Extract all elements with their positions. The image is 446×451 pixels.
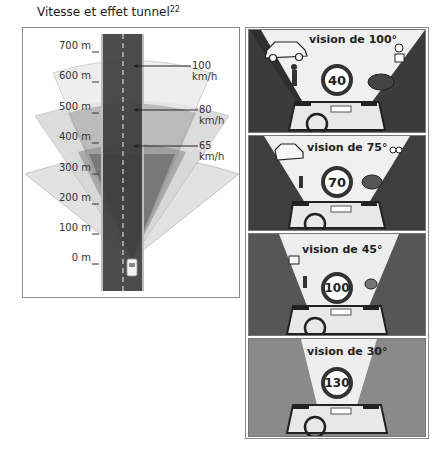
vision-panel-75: vision de 75° 70 <box>248 135 426 231</box>
speed-label-65: 65 km/h <box>199 140 239 162</box>
distance-label-700: 700 m <box>41 40 91 51</box>
speed-sign: 40 <box>321 64 353 96</box>
tunnel-effect-diagram: 700 m 600 m 500 m 400 m 300 m 200 m 100 … <box>22 27 240 298</box>
vision-label: vision de 100° <box>309 33 397 46</box>
distance-label-600: 600 m <box>41 70 91 81</box>
distance-label-0: 0 m <box>41 252 91 263</box>
speed-label-100: 100 km/h <box>192 60 239 82</box>
speed-sign: 130 <box>321 367 353 399</box>
vision-panel-45: vision de 45° 100 <box>248 233 426 336</box>
distance-label-200: 200 m <box>41 192 91 203</box>
distance-label-400: 400 m <box>41 131 91 142</box>
figure-title: Vitesse et effet tunnel22 <box>37 5 180 19</box>
distance-label-300: 300 m <box>41 162 91 173</box>
footnote-ref: 22 <box>170 5 180 14</box>
vision-panel-30: vision de 30° 130 <box>248 338 426 437</box>
vision-label: vision de 75° <box>307 141 387 154</box>
speed-sign: 70 <box>321 166 353 198</box>
distance-label-500: 500 m <box>41 101 91 112</box>
speed-sign: 100 <box>321 272 353 304</box>
vision-panels: vision de 100° 40 vision de 75° 70 <box>245 27 429 439</box>
speed-label-80: 80 km/h <box>199 104 239 126</box>
vision-label: vision de 30° <box>307 345 387 358</box>
distance-label-100: 100 m <box>41 222 91 233</box>
vision-panel-100: vision de 100° 40 <box>248 29 426 133</box>
vision-label: vision de 45° <box>302 243 382 256</box>
figure-title-text: Vitesse et effet tunnel <box>37 5 170 19</box>
